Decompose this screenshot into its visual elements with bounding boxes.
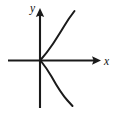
parabola-upper-branch: [41, 11, 75, 60]
graph-canvas: y x: [0, 0, 114, 113]
figure-container: y x: [0, 0, 114, 113]
x-axis-label: x: [103, 55, 110, 67]
y-axis-label: y: [29, 2, 36, 15]
parabola-lower-branch: [41, 61, 73, 107]
